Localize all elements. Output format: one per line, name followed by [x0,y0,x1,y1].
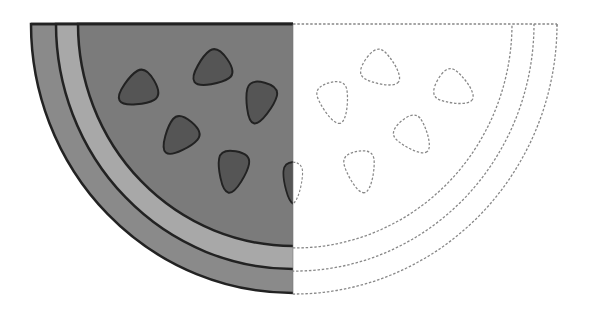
seed-outline [315,79,355,127]
seed-outline [356,45,408,95]
watermelon-illustration [0,0,589,318]
seed-outline [389,111,439,162]
seeds-outline [275,45,481,205]
seed-outline [430,65,481,114]
seed-outline [342,149,379,196]
